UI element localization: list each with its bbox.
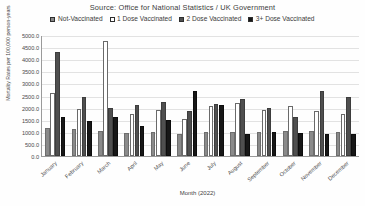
x-tick-wrap: October xyxy=(280,158,307,188)
bar-chart: Source: Office for National Statistics /… xyxy=(0,0,365,206)
x-tick-wrap: December xyxy=(333,158,360,188)
bar[interactable] xyxy=(209,106,214,156)
bar[interactable] xyxy=(50,93,55,156)
bar[interactable] xyxy=(108,108,113,156)
bar[interactable] xyxy=(320,91,325,156)
x-axis-tick-label: October xyxy=(278,160,297,178)
bar[interactable] xyxy=(130,114,135,156)
bar[interactable] xyxy=(351,134,356,156)
legend-item[interactable]: 3+ Dose Vaccinated xyxy=(248,16,314,23)
bar[interactable] xyxy=(245,134,250,156)
bar[interactable] xyxy=(187,111,192,156)
dark-gray-hatch-swatch xyxy=(50,17,55,22)
bar[interactable] xyxy=(309,131,314,156)
x-axis-tick-label: March xyxy=(96,160,112,175)
bar[interactable] xyxy=(98,131,103,156)
bar-group xyxy=(72,36,92,156)
x-axis-tick-label: April xyxy=(125,160,137,172)
bar-group xyxy=(124,36,144,156)
bar[interactable] xyxy=(325,134,330,156)
bar[interactable] xyxy=(262,110,267,156)
x-axis-tick-label: February xyxy=(64,160,85,179)
legend-item-label: 3+ Dose Vaccinated xyxy=(256,16,315,23)
bar[interactable] xyxy=(293,117,298,156)
bar[interactable] xyxy=(166,120,171,156)
bar[interactable] xyxy=(230,132,235,156)
bar[interactable] xyxy=(45,128,50,156)
bar[interactable] xyxy=(240,99,245,156)
x-axis-tick-label: May xyxy=(152,160,164,172)
x-tick-wrap: March xyxy=(94,158,121,188)
bar-group xyxy=(98,36,118,156)
bar[interactable] xyxy=(61,117,66,156)
bar[interactable] xyxy=(346,97,351,156)
bar[interactable] xyxy=(161,102,166,156)
bar[interactable] xyxy=(103,41,108,156)
bar-group xyxy=(204,36,224,156)
bar[interactable] xyxy=(193,91,198,156)
bar-group xyxy=(45,36,65,156)
mid-gray-swatch xyxy=(179,17,184,22)
bar[interactable] xyxy=(235,103,240,156)
x-tick-wrap: August xyxy=(227,158,254,188)
legend-item[interactable]: 2 Dose Vaccinated xyxy=(179,16,241,23)
y-axis-tick-label: 0.0 xyxy=(3,154,39,160)
legend-item[interactable]: 1 Dose Vaccinated xyxy=(110,16,172,23)
x-axis-tick-label: June xyxy=(178,160,191,173)
bar[interactable] xyxy=(182,119,187,157)
chart-legend: Not-Vaccinated1 Dose Vaccinated2 Dose Va… xyxy=(0,16,365,23)
bar-group xyxy=(257,36,277,156)
bar[interactable] xyxy=(219,105,224,156)
bar[interactable] xyxy=(314,111,319,156)
bar-group xyxy=(336,36,356,156)
bar[interactable] xyxy=(272,132,277,156)
x-axis-tick-label: August xyxy=(227,160,244,176)
bar[interactable] xyxy=(113,117,118,156)
bar-groups xyxy=(42,36,359,156)
bar[interactable] xyxy=(140,126,145,156)
x-tick-wrap: January xyxy=(41,158,68,188)
legend-item-label: 2 Dose Vaccinated xyxy=(186,16,241,23)
y-axis-tick-label: 1000.0 xyxy=(3,130,39,136)
legend-item-label: 1 Dose Vaccinated xyxy=(117,16,172,23)
bar[interactable] xyxy=(257,132,262,156)
bar[interactable] xyxy=(267,108,272,156)
bar[interactable] xyxy=(156,110,161,156)
bar[interactable] xyxy=(177,134,182,156)
y-axis-tick-label: 1500.0 xyxy=(3,118,39,124)
bar-group xyxy=(177,36,197,156)
x-tick-wrap: July xyxy=(200,158,227,188)
bar-group xyxy=(151,36,171,156)
x-tick-wrap: September xyxy=(253,158,280,188)
bar-group xyxy=(230,36,250,156)
bar[interactable] xyxy=(124,133,129,156)
y-axis-title: Mortality Rates per 100,000 person-years xyxy=(5,0,11,113)
x-axis-tick-label: January xyxy=(39,160,58,178)
plot-area xyxy=(41,36,359,157)
bar[interactable] xyxy=(214,104,219,156)
bar[interactable] xyxy=(82,97,87,156)
legend-item-label: Not-Vaccinated xyxy=(58,16,103,23)
bar[interactable] xyxy=(72,129,77,156)
bar-group xyxy=(309,36,329,156)
bar[interactable] xyxy=(87,121,92,156)
bar[interactable] xyxy=(298,133,303,156)
white-swatch xyxy=(110,17,115,22)
x-axis-tick-label: July xyxy=(206,160,217,171)
bar[interactable] xyxy=(151,132,156,156)
x-tick-wrap: February xyxy=(68,158,95,188)
bar[interactable] xyxy=(204,132,209,156)
bar[interactable] xyxy=(55,52,60,156)
bar[interactable] xyxy=(341,114,346,156)
x-tick-wrap: November xyxy=(306,158,333,188)
bar[interactable] xyxy=(288,106,293,156)
legend-item[interactable]: Not-Vaccinated xyxy=(50,16,102,23)
x-tick-wrap: April xyxy=(121,158,148,188)
bar[interactable] xyxy=(336,132,341,156)
chart-title: Source: Office for National Statistics /… xyxy=(0,3,365,12)
bar[interactable] xyxy=(283,131,288,156)
bar-group xyxy=(283,36,303,156)
bar[interactable] xyxy=(77,109,82,156)
bar[interactable] xyxy=(135,105,140,156)
x-axis-title: Month (2022) xyxy=(0,190,365,196)
